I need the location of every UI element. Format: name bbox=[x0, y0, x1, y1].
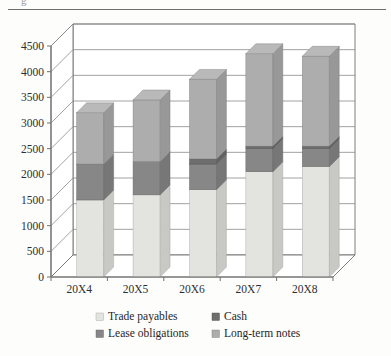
bar-segment bbox=[246, 149, 273, 172]
bar-segment bbox=[133, 162, 160, 195]
x-tick-label: 20X6 bbox=[179, 283, 205, 295]
bar-segment-side bbox=[217, 180, 227, 277]
bar-segment-side bbox=[104, 103, 114, 164]
y-tick-label: 3500 bbox=[21, 91, 44, 103]
bar-segment bbox=[302, 56, 329, 146]
bar-segment bbox=[189, 190, 216, 277]
legend-item[interactable]: Trade payables bbox=[96, 310, 178, 323]
legend-item[interactable]: Cash bbox=[212, 310, 247, 322]
y-tick-label: 500 bbox=[27, 245, 45, 257]
bar-group bbox=[302, 46, 339, 277]
y-tick-label: 4500 bbox=[21, 40, 44, 52]
bar-segment-side bbox=[217, 69, 227, 158]
bar-segment-side bbox=[329, 157, 339, 277]
bar-segment bbox=[246, 172, 273, 277]
legend-item[interactable]: Lease obligations bbox=[96, 327, 189, 340]
x-tick-label: 20X5 bbox=[123, 283, 149, 295]
bar-segment-side bbox=[273, 44, 283, 146]
page-header-clip: g bbox=[0, 0, 391, 12]
y-tick-label: 4000 bbox=[21, 66, 44, 78]
bar-segment-side bbox=[273, 162, 283, 277]
x-tick-marks bbox=[51, 277, 333, 281]
bar-group bbox=[189, 69, 226, 277]
legend-swatch bbox=[96, 330, 104, 338]
y-tick-label: 2000 bbox=[21, 168, 44, 180]
x-tick-label: 20X4 bbox=[66, 283, 92, 295]
bar-segment bbox=[189, 164, 216, 190]
chart-svg: 450040003500300025002000150010005000 20X… bbox=[0, 12, 391, 356]
bar-segment bbox=[189, 159, 216, 164]
legend-label: Long-term notes bbox=[224, 327, 301, 340]
y-tick-label: 1500 bbox=[21, 194, 44, 206]
bar-segment-side bbox=[329, 46, 339, 146]
chart-legend: Trade payablesCashLease obligationsLong-… bbox=[96, 310, 301, 340]
header-divider-rule bbox=[8, 9, 386, 10]
x-tick-label: 20X7 bbox=[236, 283, 262, 295]
bar-segment bbox=[77, 164, 104, 200]
x-tick-labels: 20X420X520X620X720X8 bbox=[66, 283, 317, 295]
legend-label: Lease obligations bbox=[108, 327, 189, 340]
y-tick-label: 3000 bbox=[21, 117, 44, 129]
legend-label: Trade payables bbox=[108, 310, 178, 323]
legend-swatch bbox=[96, 313, 104, 321]
bar-group bbox=[133, 90, 170, 277]
bar-group bbox=[77, 103, 114, 277]
bar-segment bbox=[302, 149, 329, 167]
bar-segment-side bbox=[160, 185, 170, 277]
legend-item[interactable]: Long-term notes bbox=[212, 327, 301, 340]
bar-segment bbox=[302, 146, 329, 149]
legend-swatch bbox=[212, 330, 220, 338]
y-tick-marks bbox=[47, 46, 51, 277]
left-wall bbox=[51, 24, 73, 277]
bar-segment bbox=[77, 113, 104, 164]
cropped-header-glyph: g bbox=[21, 0, 27, 6]
bar-segment bbox=[189, 79, 216, 159]
legend-label: Cash bbox=[224, 310, 247, 322]
legend-swatch bbox=[212, 313, 220, 321]
y-tick-label: 0 bbox=[38, 271, 44, 283]
bar-segment bbox=[246, 146, 273, 149]
bar-segment-side bbox=[104, 190, 114, 277]
bar-group bbox=[246, 44, 283, 277]
y-tick-label: 2500 bbox=[21, 143, 44, 155]
y-tick-label: 1000 bbox=[21, 220, 44, 232]
bar-segment bbox=[246, 54, 273, 146]
bar-segment bbox=[77, 200, 104, 277]
stacked-column-chart: 450040003500300025002000150010005000 20X… bbox=[0, 12, 391, 356]
bar-segment bbox=[133, 100, 160, 162]
bar-segment bbox=[133, 195, 160, 277]
bar-segment-side bbox=[160, 90, 170, 162]
y-tick-labels: 450040003500300025002000150010005000 bbox=[21, 40, 44, 283]
bar-segment bbox=[302, 167, 329, 277]
chart-page: g 450040003500300025002000150010005000 bbox=[0, 0, 391, 356]
x-tick-label: 20X8 bbox=[292, 283, 318, 295]
